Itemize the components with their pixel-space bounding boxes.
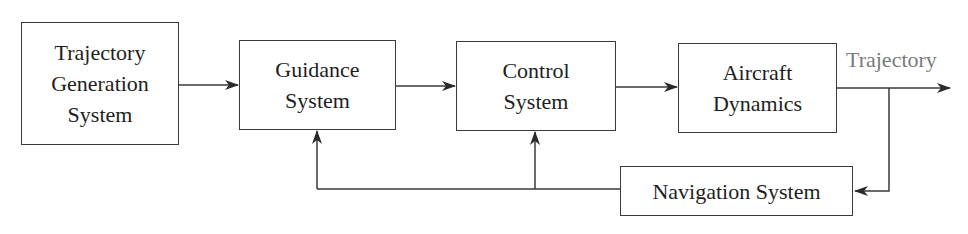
block-guidance-system: Guidance System <box>239 40 396 130</box>
guidance-navigation-control-diagram: Trajectory Generation System Guidance Sy… <box>0 0 968 234</box>
block-label: Aircraft Dynamics <box>713 57 802 119</box>
output-label-trajectory: Trajectory <box>846 47 937 73</box>
block-label: Control System <box>502 55 569 117</box>
block-control-system: Control System <box>456 41 616 131</box>
block-aircraft-dynamics: Aircraft Dynamics <box>678 43 837 133</box>
block-label: Navigation System <box>652 176 820 207</box>
block-trajectory-generation: Trajectory Generation System <box>21 22 179 145</box>
block-navigation-system: Navigation System <box>620 166 853 216</box>
block-label: Trajectory Generation System <box>51 37 149 130</box>
block-label: Guidance System <box>275 54 359 116</box>
arrow-feedback-to-navigation <box>855 88 889 191</box>
